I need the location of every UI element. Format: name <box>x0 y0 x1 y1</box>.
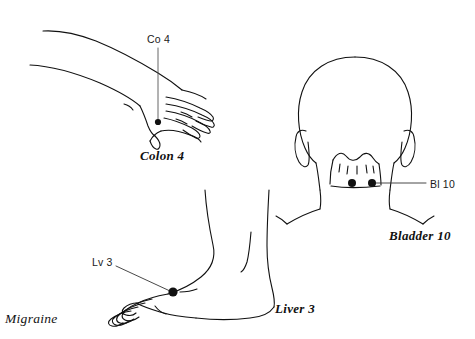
foot-figure-outline <box>108 190 274 326</box>
acupoint-dot-co4 <box>155 119 161 125</box>
acupoint-dot-lv3 <box>168 287 177 296</box>
point-label-bl10: Bl 10 <box>430 178 455 190</box>
point-label-lv3: Lv 3 <box>92 256 113 268</box>
acupoint-dot-bl10-right <box>368 179 376 187</box>
point-label-co4: Co 4 <box>147 33 170 45</box>
acupuncture-chart-page: Co 4 Bl 10 Lv 3 Colon 4 Bladder 10 Liver… <box>0 0 475 339</box>
acupoint-dot-bl10-left <box>348 179 356 187</box>
caption-liver-3: Liver 3 <box>275 301 315 317</box>
caption-colon-4: Colon 4 <box>140 148 184 164</box>
caption-bladder-10: Bladder 10 <box>389 228 451 244</box>
hand-figure-outline <box>30 31 214 149</box>
head-figure-outline <box>276 57 434 224</box>
line-art-illustrations <box>0 0 475 339</box>
chart-title-migraine: Migraine <box>5 311 58 327</box>
leader-line-lv3 <box>116 266 170 291</box>
